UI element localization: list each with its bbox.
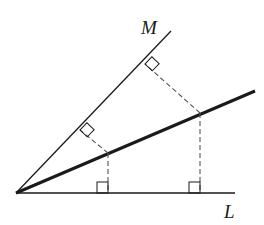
right-angle-mark-M-inner [80,123,94,137]
perpendicular-to-M-outer [145,64,200,113]
label-M: M [140,17,158,38]
angle-bisector-diagram: M L [0,0,264,225]
right-angle-mark-M-outer [145,57,159,71]
bisector-line [16,91,255,193]
right-angle-mark-L-inner [97,182,108,193]
label-L: L [223,201,235,222]
right-angle-mark-L-outer [189,182,200,193]
line-M [16,31,171,193]
